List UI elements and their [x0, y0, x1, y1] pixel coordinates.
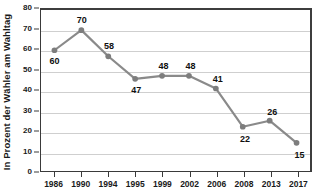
y-axis-title: In Prozent der Wähler am Wahltag: [0, 6, 14, 178]
x-tick-mark: [108, 172, 109, 177]
series-line-wahlbeteiligung: [41, 10, 310, 171]
x-tick-label: 2006: [207, 180, 226, 189]
data-point-marker: [132, 76, 138, 82]
data-point-label: 58: [104, 42, 114, 51]
x-tick-mark: [54, 172, 55, 177]
y-tick-mark: [34, 8, 39, 9]
y-tick-label: 0: [28, 168, 32, 176]
x-tick-mark: [271, 172, 272, 177]
data-point-marker: [78, 27, 84, 33]
x-tick-mark: [135, 172, 136, 177]
y-tick-mark: [34, 90, 39, 91]
x-tick-label: 2013: [262, 180, 281, 189]
x-tick-mark: [244, 172, 245, 177]
y-tick-label: 50: [23, 66, 32, 74]
plot-area: 60705847484841222615: [40, 8, 312, 172]
data-point-label: 70: [77, 16, 87, 25]
y-tick-label: 10: [23, 148, 32, 156]
y-tick-mark: [34, 131, 39, 132]
y-tick-label: 80: [23, 4, 32, 12]
data-point-marker: [52, 47, 58, 53]
data-point-marker: [240, 124, 246, 130]
y-tick-label: 70: [23, 25, 32, 33]
x-tick-label: 2008: [235, 180, 254, 189]
x-axis-tick-marks: [40, 172, 312, 178]
x-tick-mark: [162, 172, 163, 177]
data-point-label: 41: [213, 75, 223, 84]
y-tick-mark: [34, 49, 39, 50]
data-point-marker: [105, 53, 111, 59]
x-axis-tick-labels: 1986199019941995199920022006200820132017: [40, 180, 312, 194]
data-point-label: 48: [158, 62, 168, 71]
y-tick-mark: [34, 172, 39, 173]
x-tick-mark: [81, 172, 82, 177]
x-tick-label: 1994: [99, 180, 118, 189]
y-tick-mark: [34, 110, 39, 111]
data-point-label: 22: [240, 135, 250, 144]
data-point-label: 15: [294, 151, 304, 160]
data-point-label: 26: [267, 108, 277, 117]
y-tick-mark: [34, 151, 39, 152]
x-tick-mark: [190, 172, 191, 177]
x-tick-mark: [217, 172, 218, 177]
data-point-marker: [294, 140, 300, 146]
y-tick-mark: [34, 28, 39, 29]
x-tick-label: 2017: [289, 180, 308, 189]
x-tick-label: 2002: [180, 180, 199, 189]
data-point-marker: [213, 86, 219, 92]
x-tick-mark: [298, 172, 299, 177]
x-tick-label: 1995: [126, 180, 145, 189]
data-point-label: 60: [50, 57, 60, 66]
data-point-label: 48: [186, 62, 196, 71]
y-tick-label: 40: [23, 86, 32, 94]
y-tick-label: 20: [23, 127, 32, 135]
data-point-marker: [267, 118, 273, 124]
y-tick-label: 30: [23, 107, 32, 115]
series-polyline: [54, 30, 296, 143]
y-tick-label: 60: [23, 45, 32, 53]
x-tick-label: 1990: [71, 180, 90, 189]
y-axis-tick-labels: 01020304050607080: [14, 8, 34, 172]
x-tick-label: 1986: [44, 180, 63, 189]
x-tick-label: 1999: [153, 180, 172, 189]
data-point-marker: [159, 73, 165, 79]
line-chart: In Prozent der Wähler am Wahltag 0102030…: [0, 0, 316, 196]
data-point-label: 47: [131, 86, 141, 95]
y-tick-mark: [34, 69, 39, 70]
data-point-marker: [186, 73, 192, 79]
